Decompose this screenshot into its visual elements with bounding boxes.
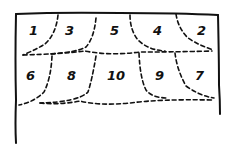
region-label-bottom-1: 6 — [26, 68, 35, 83]
region-label-bottom-2: 8 — [67, 68, 76, 83]
region-label-top-5: 2 — [197, 23, 206, 38]
divider-4-2 — [176, 14, 214, 50]
region-label-bottom-3: 10 — [107, 68, 125, 83]
region-label-bottom-5: 7 — [195, 68, 205, 83]
frame-top-edge — [16, 13, 218, 15]
region-label-top-3: 5 — [110, 23, 119, 38]
region-label-top-1: 1 — [29, 23, 38, 38]
divider-6-8 — [19, 56, 52, 105]
divider-middle — [23, 51, 212, 55]
divider-bottom — [40, 100, 212, 104]
frame-right-edge — [218, 15, 220, 114]
region-label-top-4: 4 — [152, 23, 162, 38]
region-label-top-2: 3 — [65, 23, 74, 38]
partition-diagram: 1 3 5 4 2 6 8 10 9 7 — [0, 0, 232, 145]
frame-left-edge — [16, 14, 17, 143]
region-label-bottom-4: 9 — [155, 68, 164, 83]
